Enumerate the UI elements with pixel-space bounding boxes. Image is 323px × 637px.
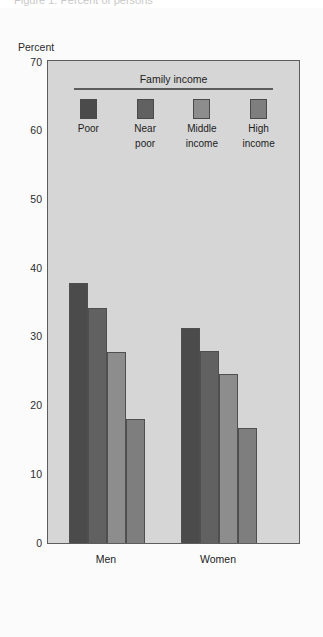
legend-divider	[74, 88, 273, 90]
legend-item-1: Nearpoor	[119, 99, 171, 149]
bar-women-middle-income	[219, 374, 238, 543]
y-tick-label-10: 10	[18, 468, 42, 480]
legend-title: Family income	[60, 73, 287, 85]
figure-page: Percent Family income PoorNearpoorMiddle…	[0, 8, 323, 637]
bar-men-high-income	[126, 419, 145, 543]
legend-label-2-line2: income	[176, 138, 228, 149]
bar-women-high-income	[238, 428, 257, 543]
x-tick-label-men: Men	[66, 553, 146, 565]
cropped-figure-caption: Figure 1. Percent of persons	[14, 0, 244, 7]
legend-label-2: Middle	[176, 123, 228, 134]
y-tick-label-50: 50	[18, 193, 42, 205]
y-tick-label-40: 40	[18, 262, 42, 274]
legend-swatch-2	[193, 99, 210, 119]
y-axis-title: Percent	[18, 41, 54, 53]
legend-swatch-0	[80, 99, 97, 119]
bar-group-women	[181, 328, 257, 543]
legend-items: PoorNearpoorMiddleincomeHighincome	[60, 99, 287, 149]
bar-men-near-poor	[88, 308, 107, 543]
legend-item-0: Poor	[62, 99, 114, 149]
legend-label-3: High	[233, 123, 285, 134]
plot-area: Family income PoorNearpoorMiddleincomeHi…	[47, 60, 300, 544]
bar-women-near-poor	[200, 351, 219, 543]
legend-swatch-3	[250, 99, 267, 119]
y-tick-label-20: 20	[18, 399, 42, 411]
legend-item-3: Highincome	[233, 99, 285, 149]
bar-group-men	[69, 283, 145, 543]
bar-women-poor	[181, 328, 200, 543]
y-tick-label-60: 60	[18, 124, 42, 136]
y-tick-label-30: 30	[18, 330, 42, 342]
legend-label-0: Poor	[62, 123, 114, 134]
y-tick-label-0: 0	[18, 537, 42, 549]
legend-label-3-line2: income	[233, 138, 285, 149]
legend-swatch-1	[137, 99, 154, 119]
legend-label-1-line2: poor	[119, 138, 171, 149]
y-tick-label-70: 70	[18, 56, 42, 68]
legend-label-1: Near	[119, 123, 171, 134]
legend-item-2: Middleincome	[176, 99, 228, 149]
chart-legend: Family income PoorNearpoorMiddleincomeHi…	[60, 73, 287, 169]
bar-men-middle-income	[107, 352, 126, 543]
cropped-figure-caption-text: Figure 1. Percent of persons	[14, 0, 244, 6]
x-tick-label-women: Women	[178, 553, 258, 565]
bar-men-poor	[69, 283, 88, 543]
